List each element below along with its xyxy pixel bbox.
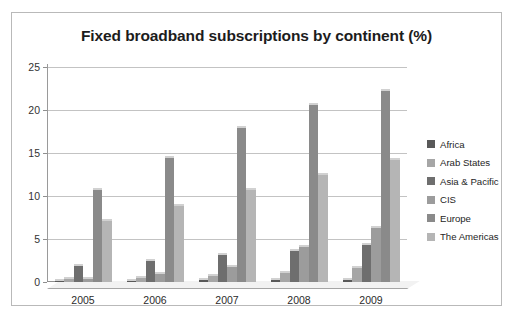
bar-top-edge [136,276,146,278]
bar-fill [318,175,328,282]
bar-top-edge [74,264,84,266]
bar-top-edge [93,188,103,190]
bar-group [263,67,335,282]
bar-top-edge [246,188,256,190]
bar-top-edge [352,266,362,268]
bar-fill [390,160,400,282]
bar-fill [174,206,184,282]
bar-fill [381,91,391,282]
axis-base-slab [47,281,420,289]
legend-label: Africa [440,139,465,150]
bar-group [119,67,191,282]
bar-fill [102,221,112,282]
chart-title: Fixed broadband subscriptions by contine… [12,27,501,45]
bar-top-edge [280,271,290,273]
bar-top-edge [146,259,156,261]
x-tick-label: 2009 [359,294,382,306]
bar-top-edge [390,158,400,160]
bar-fill [280,273,290,282]
bar-top-edge [381,89,391,91]
legend-swatch-icon [427,214,435,222]
bar-fill [127,281,137,283]
y-tick-mark [43,239,47,240]
bar-fill [371,228,381,282]
x-tick-label: 2008 [287,294,310,306]
legend-swatch-icon [427,159,435,167]
bar-fill [237,128,247,282]
bar-fill [155,274,165,282]
y-tick-label: 10 [28,190,40,202]
bar-top-edge [227,265,237,267]
legend-item-asia-pacific[interactable]: Asia & Pacific [427,172,515,191]
bar-fill [246,190,256,282]
bar-top-edge [64,277,74,279]
bar-fill [299,247,309,282]
bar-top-edge [343,278,353,280]
x-tick-label: 2005 [71,294,94,306]
bar-top-edge [174,204,184,206]
legend-label: Europe [440,213,471,224]
legend-label: CIS [440,194,456,205]
bar-fill [309,105,319,282]
y-tick-mark [43,153,47,154]
y-tick-label: 15 [28,147,40,159]
chart-frame: Fixed broadband subscriptions by contine… [11,12,502,306]
bar-fill [199,280,209,282]
bar-top-edge [127,279,137,281]
bar-top-edge [208,274,218,276]
legend-label: Asia & Pacific [440,176,499,187]
y-tick-mark [43,67,47,68]
y-tick-label: 25 [28,61,40,73]
y-tick-mark [43,110,47,111]
legend-label: Arab States [440,157,490,168]
bar-top-edge [299,245,309,247]
legend-item-arab-states[interactable]: Arab States [427,154,515,173]
legend-swatch-icon [427,196,435,204]
y-tick-label: 5 [34,233,40,245]
bar-top-edge [55,279,65,281]
bar-fill [271,280,281,282]
bar-top-edge [155,272,165,274]
chart-legend: AfricaArab StatesAsia & PacificCISEurope… [427,135,515,246]
bar-top-edge [371,226,381,228]
bar-fill [343,280,353,282]
bar-top-edge [362,243,372,245]
bar-top-edge [318,173,328,175]
plot-area: 20052006200720082009 0510152025 [47,67,407,282]
bar-fill [93,190,103,282]
bar-top-edge [218,253,228,255]
legend-item-europe[interactable]: Europe [427,209,515,228]
bar-fill [55,281,65,283]
bar-fill [64,279,74,282]
legend-swatch-icon [427,140,435,148]
bar-top-edge [309,103,319,105]
bar-fill [136,278,146,282]
legend-swatch-icon [427,177,435,185]
x-tick-label: 2006 [143,294,166,306]
bar-fill [218,255,228,282]
legend-item-cis[interactable]: CIS [427,191,515,210]
bar-fill [352,268,362,282]
x-tick-label: 2007 [215,294,238,306]
bar-top-edge [199,278,209,280]
legend-label: The Americas [440,231,499,242]
bar-top-edge [83,277,93,279]
bar-group [335,67,407,282]
bar-top-edge [290,249,300,251]
bar-fill [165,158,175,282]
bar-fill [362,245,372,282]
bar-group [191,67,263,282]
bar-top-edge [237,126,247,128]
y-tick-mark [43,196,47,197]
bar-fill [290,251,300,282]
bar-fill [208,276,218,282]
y-tick-label: 20 [28,104,40,116]
bar-fill [83,279,93,282]
legend-swatch-icon [427,233,435,241]
legend-item-africa[interactable]: Africa [427,135,515,154]
legend-item-the-americas[interactable]: The Americas [427,228,515,247]
bar-group [47,67,119,282]
bar-top-edge [165,156,175,158]
bar-top-edge [271,278,281,280]
bar-top-edge [102,219,112,221]
